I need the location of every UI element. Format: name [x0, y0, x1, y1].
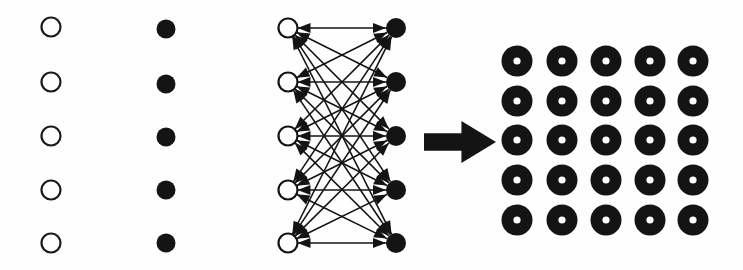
- donut-unit: [635, 205, 666, 236]
- right-block-arrow-shape: [424, 121, 496, 163]
- donut-center-hole: [602, 136, 609, 143]
- donut-unit: [678, 165, 709, 196]
- network-right-node: [386, 180, 406, 200]
- filled-dot-column: [157, 20, 176, 253]
- donut-center-hole: [646, 216, 653, 223]
- donut-center-hole: [646, 176, 653, 183]
- filled-dot-node: [157, 20, 176, 39]
- donut-center-hole: [558, 97, 565, 104]
- donut-unit: [502, 86, 533, 117]
- donut-center-hole: [513, 216, 520, 223]
- filled-dot-node: [157, 128, 176, 147]
- donut-grid-panel: [502, 46, 709, 236]
- edge-arrowhead: [298, 77, 311, 87]
- donut-unit: [591, 86, 622, 117]
- donut-center-hole: [602, 216, 609, 223]
- network-left-node: [279, 73, 298, 92]
- open-circle-node: [42, 234, 61, 253]
- donut-unit: [635, 46, 666, 77]
- donut-unit: [635, 165, 666, 196]
- donut-center-hole: [558, 57, 565, 64]
- network-right-node: [386, 126, 406, 146]
- network-right-node: [386, 72, 406, 92]
- filled-dot-node: [157, 234, 176, 253]
- donut-unit: [547, 86, 578, 117]
- donut-unit: [502, 165, 533, 196]
- network-left-node: [279, 19, 298, 38]
- donut-center-hole: [689, 136, 696, 143]
- donut-center-hole: [602, 176, 609, 183]
- edge-arrowhead: [373, 131, 386, 141]
- edge-arrowhead: [373, 77, 386, 87]
- donut-unit: [591, 125, 622, 156]
- donut-center-hole: [646, 97, 653, 104]
- donut-center-hole: [513, 176, 520, 183]
- donut-unit: [502, 205, 533, 236]
- donut-center-hole: [513, 57, 520, 64]
- network-right-node: [386, 18, 406, 38]
- network-edge-layer: [292, 23, 391, 248]
- donut-center-hole: [513, 97, 520, 104]
- open-circle-node: [42, 181, 61, 200]
- open-circle-node: [42, 127, 61, 146]
- open-circle-column: [42, 18, 61, 253]
- donut-center-hole: [646, 57, 653, 64]
- donut-center-hole: [513, 136, 520, 143]
- donut-unit: [547, 165, 578, 196]
- donut-unit: [502, 125, 533, 156]
- network-left-node: [279, 181, 298, 200]
- filled-dot-node: [157, 75, 176, 94]
- network-right-node: [386, 233, 406, 253]
- edge-arrowhead: [373, 23, 386, 33]
- donut-unit: [635, 125, 666, 156]
- donut-unit: [678, 205, 709, 236]
- donut-center-hole: [689, 216, 696, 223]
- edge-arrowhead: [298, 185, 311, 195]
- donut-center-hole: [646, 136, 653, 143]
- network-left-node: [279, 234, 298, 253]
- donut-unit: [591, 205, 622, 236]
- donut-center-hole: [558, 216, 565, 223]
- open-circle-node: [42, 73, 61, 92]
- block-arrow: [424, 121, 496, 163]
- network-left-nodes: [279, 19, 298, 253]
- donut-unit: [547, 205, 578, 236]
- edge-arrowhead: [373, 185, 386, 195]
- open-circle-node: [42, 18, 61, 37]
- donut-unit: [678, 125, 709, 156]
- donut-unit: [547, 125, 578, 156]
- donut-unit: [678, 86, 709, 117]
- donut-unit: [635, 86, 666, 117]
- donut-center-hole: [602, 97, 609, 104]
- donut-center-hole: [689, 97, 696, 104]
- donut-center-hole: [689, 57, 696, 64]
- edge-arrowhead: [298, 238, 311, 248]
- donut-unit: [502, 46, 533, 77]
- filled-dot-node: [157, 181, 176, 200]
- network-left-node: [279, 127, 298, 146]
- edge-arrowhead: [298, 23, 311, 33]
- donut-center-hole: [689, 176, 696, 183]
- edge-arrowhead: [298, 131, 311, 141]
- network-right-nodes: [386, 18, 406, 253]
- diagram-canvas: [0, 0, 743, 270]
- donut-unit: [591, 46, 622, 77]
- figure-root: Bipartite network combination diagram: [0, 0, 743, 270]
- donut-center-hole: [558, 136, 565, 143]
- donut-unit: [591, 165, 622, 196]
- donut-unit: [678, 46, 709, 77]
- edge-arrowhead: [373, 238, 386, 248]
- donut-center-hole: [602, 57, 609, 64]
- donut-center-hole: [558, 176, 565, 183]
- donut-unit: [547, 46, 578, 77]
